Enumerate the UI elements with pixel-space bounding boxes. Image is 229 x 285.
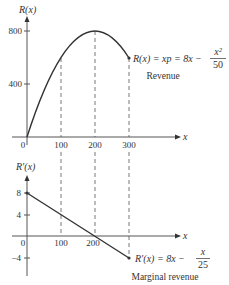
top-x-tick-label-200: 200 (88, 140, 102, 150)
top-x-tick-label-300: 300 (122, 140, 136, 150)
marginal-revenue-endpoint (127, 256, 130, 259)
top-y-axis-arrow-icon (25, 16, 30, 22)
marginal-revenue-equation-numerator: x (200, 246, 206, 257)
bottom-y-axis-arrow-icon (25, 175, 30, 181)
bottom-y-tick-label-4: 4 (17, 210, 22, 220)
marginal-revenue-line (27, 193, 129, 258)
revenue-charts: R(x) x 800 400 0 100 200 300 R(x) = xp =… (0, 0, 229, 285)
marginal-revenue-chart: R′(x) x 8 4 −4 0 100 200 R′(x) = 8x − x … (11, 152, 210, 282)
top-x-tick-label-0: 0 (21, 140, 26, 150)
bottom-x-axis-label: x (182, 230, 188, 241)
marginal-revenue-equation: R′(x) = 8x − (134, 253, 185, 265)
top-y-axis-label: R(x) (18, 4, 37, 16)
bottom-y-tick-label-minus4: −4 (11, 253, 21, 263)
marginal-revenue-startpoint (25, 191, 28, 194)
revenue-equation: R(x) = xp = 8x − (132, 53, 202, 65)
revenue-caption: Revenue (146, 71, 179, 81)
bottom-y-axis-label: R′(x) (15, 161, 36, 173)
marginal-revenue-equation-denominator: 25 (198, 259, 208, 270)
revenue-endpoint (127, 56, 130, 59)
top-x-tick-label-100: 100 (54, 140, 68, 150)
top-y-tick-label-800: 800 (9, 26, 23, 36)
bottom-x-axis-arrow-icon (175, 234, 181, 239)
top-y-tick-label-400: 400 (9, 79, 23, 89)
top-x-axis-label: x (182, 131, 188, 142)
revenue-curve (27, 31, 129, 137)
top-x-axis-arrow-icon (175, 135, 181, 140)
marginal-revenue-caption: Marginal revenue (131, 272, 198, 282)
revenue-chart: R(x) x 800 400 0 100 200 300 R(x) = xp =… (9, 4, 227, 150)
bottom-x-tick-label-100: 100 (54, 238, 68, 248)
revenue-equation-numerator: x² (213, 46, 222, 57)
revenue-equation-denominator: 50 (213, 59, 223, 70)
bottom-x-tick-label-200: 200 (86, 238, 100, 248)
bottom-x-tick-label-0: 0 (21, 238, 26, 248)
bottom-y-tick-label-8: 8 (17, 188, 22, 198)
